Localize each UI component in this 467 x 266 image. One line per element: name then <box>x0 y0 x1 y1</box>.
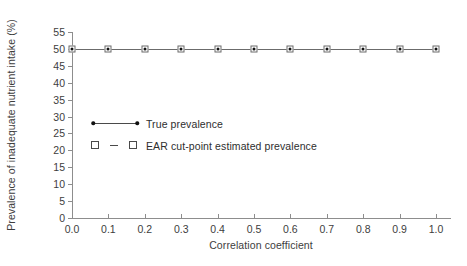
x-tick-label: 0.6 <box>283 223 298 235</box>
series-line-segment <box>254 49 290 50</box>
x-axis-title: Correlation coefficient <box>72 239 450 251</box>
data-point-marker <box>362 47 365 50</box>
data-point-marker <box>325 47 328 50</box>
x-tick-label: 1.0 <box>429 223 444 235</box>
x-tick-label: 0.8 <box>356 223 371 235</box>
y-tick-label: 45 <box>53 60 65 72</box>
x-tick-label: 0.0 <box>65 223 80 235</box>
x-tick-label: 0.4 <box>210 223 225 235</box>
y-tick-label: 55 <box>53 26 65 38</box>
data-point-marker <box>216 47 219 50</box>
x-axis-line <box>72 218 451 219</box>
x-tick-label: 0.1 <box>101 223 116 235</box>
chart-figure: Prevalence of inadequate nutrient intake… <box>0 0 467 266</box>
y-tick-label: 40 <box>53 77 65 89</box>
y-axis-title: Prevalence of inadequate nutrient intake… <box>0 0 22 258</box>
data-point-marker <box>180 47 183 50</box>
legend-key-true-prevalence-icon <box>88 117 146 131</box>
series-line-segment <box>327 49 363 50</box>
y-tick-label: 25 <box>53 127 65 139</box>
x-tick-label: 0.9 <box>392 223 407 235</box>
data-point-marker <box>253 47 256 50</box>
y-tick-label: 20 <box>53 144 65 156</box>
x-tick-label: 0.5 <box>247 223 262 235</box>
series-line-segment <box>72 49 108 50</box>
series-line-segment <box>145 49 181 50</box>
legend-label-true-prevalence: True prevalence <box>146 118 223 130</box>
data-point-marker <box>143 47 146 50</box>
x-tick-label: 0.7 <box>319 223 334 235</box>
data-point-marker <box>398 47 401 50</box>
y-tick-label: 10 <box>53 178 65 190</box>
data-point-marker <box>435 47 438 50</box>
x-tick-label: 0.2 <box>137 223 152 235</box>
y-tick-label: 5 <box>59 195 65 207</box>
y-tick-mark <box>68 218 72 219</box>
series-line-segment <box>400 49 436 50</box>
legend-label-ear-estimated-prevalence: EAR cut-point estimated prevalence <box>146 140 317 152</box>
chart-legend: True prevalence EAR cut-point estimated … <box>88 113 317 157</box>
y-tick-label: 35 <box>53 94 65 106</box>
series-line-segment <box>218 49 254 50</box>
y-tick-label: 50 <box>53 43 65 55</box>
legend-item-ear-estimated-prevalence: EAR cut-point estimated prevalence <box>88 135 317 157</box>
x-tick-label: 0.3 <box>174 223 189 235</box>
series-line-segment <box>363 49 399 50</box>
series-line-segment <box>181 49 217 50</box>
data-point-marker <box>289 47 292 50</box>
data-point-marker <box>107 47 110 50</box>
y-tick-label: 15 <box>53 161 65 173</box>
y-tick-label: 30 <box>53 111 65 123</box>
series-line-segment <box>108 49 144 50</box>
series-line-segment <box>290 49 326 50</box>
legend-item-true-prevalence: True prevalence <box>88 113 317 135</box>
legend-key-ear-estimated-prevalence-icon <box>88 139 146 153</box>
data-point-marker <box>71 47 74 50</box>
